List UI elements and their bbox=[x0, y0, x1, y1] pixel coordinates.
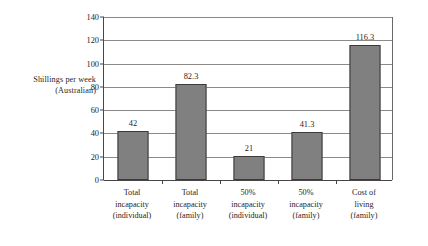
x-tick-mark bbox=[220, 180, 221, 184]
x-category-label: Totalincapacity(individual) bbox=[103, 187, 161, 222]
bar-value-label: 41.3 bbox=[300, 120, 315, 129]
x-category-label-line: 50% bbox=[219, 187, 277, 199]
plot-area: 020406080100120140 4282.32141.3116.3 bbox=[103, 17, 393, 180]
x-category-label-line: incapacity bbox=[103, 199, 161, 211]
y-tick-label: 40 bbox=[91, 129, 99, 138]
x-category-label: Cost ofliving(family) bbox=[335, 187, 393, 222]
bar-slot: 21 bbox=[220, 17, 278, 180]
x-category-label-line: (family) bbox=[277, 210, 335, 222]
y-tick-label: 140 bbox=[86, 13, 99, 22]
bar-value-label: 21 bbox=[245, 144, 253, 153]
bars-layer: 4282.32141.3116.3 bbox=[104, 17, 392, 180]
x-category-label-line: incapacity bbox=[161, 199, 219, 211]
x-category-label-line: incapacity bbox=[277, 199, 335, 211]
bar-slot: 42 bbox=[104, 17, 162, 180]
x-tick-mark bbox=[162, 180, 163, 184]
x-category-label: 50%incapacity(family) bbox=[277, 187, 335, 222]
x-category-label-line: living bbox=[335, 199, 393, 211]
bar[interactable] bbox=[176, 84, 207, 180]
x-tick-mark bbox=[336, 180, 337, 184]
y-tick-label: 20 bbox=[91, 152, 99, 161]
x-category-label-line: Total bbox=[103, 187, 161, 199]
y-tick-label: 60 bbox=[91, 106, 99, 115]
x-category-label-line: incapacity bbox=[219, 199, 277, 211]
x-category-label: Totalincapacity(family) bbox=[161, 187, 219, 222]
bar[interactable] bbox=[292, 132, 323, 180]
x-category-label: 50%incapacity(individual) bbox=[219, 187, 277, 222]
x-category-label-line: (individual) bbox=[219, 210, 277, 222]
bar[interactable] bbox=[234, 156, 265, 180]
bar-slot: 41.3 bbox=[278, 17, 336, 180]
bar-slot: 116.3 bbox=[336, 17, 394, 180]
y-axis-title-line-1: Shillings per week bbox=[33, 75, 96, 84]
bar[interactable] bbox=[350, 45, 381, 180]
bar-value-label: 42 bbox=[129, 119, 137, 128]
bar-value-label: 116.3 bbox=[356, 33, 375, 42]
x-category-label-line: (family) bbox=[335, 210, 393, 222]
x-category-label-line: 50% bbox=[277, 187, 335, 199]
x-category-label-line: (family) bbox=[161, 210, 219, 222]
y-tick-label: 120 bbox=[86, 36, 99, 45]
bar[interactable] bbox=[118, 131, 149, 180]
x-category-label-line: Total bbox=[161, 187, 219, 199]
x-category-label-line: (individual) bbox=[103, 210, 161, 222]
y-axis-title: Shillings per week (Australian) bbox=[2, 74, 96, 96]
bar-chart-figure: Shillings per week (Australian) 02040608… bbox=[0, 0, 428, 246]
y-tick-label: 80 bbox=[91, 82, 99, 91]
bar-slot: 82.3 bbox=[162, 17, 220, 180]
y-tick-label: 100 bbox=[86, 59, 99, 68]
x-category-label-line: Cost of bbox=[335, 187, 393, 199]
y-tick-label: 0 bbox=[95, 176, 99, 185]
x-tick-mark bbox=[278, 180, 279, 184]
axis-baseline bbox=[104, 180, 392, 181]
bar-value-label: 82.3 bbox=[184, 72, 199, 81]
x-axis-category-labels: Totalincapacity(individual)Totalincapaci… bbox=[103, 187, 393, 235]
